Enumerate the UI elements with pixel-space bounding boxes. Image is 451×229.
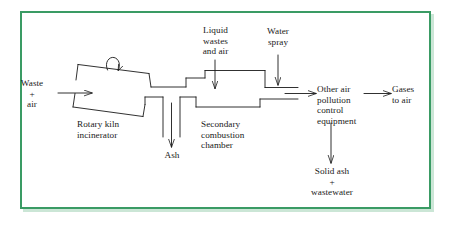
label-rotary-kiln-incinerator: Rotary kiln incinerator xyxy=(77,119,153,140)
kiln-upper-left-face xyxy=(76,65,78,81)
label-secondary-combustion-chamber: Secondary combustion chamber xyxy=(201,119,273,151)
rotary-kiln-body xyxy=(73,65,151,117)
kiln-upper-right-face xyxy=(149,74,151,88)
label-solid-ash-wastewater: Solid ash + wastewater xyxy=(296,166,368,198)
incineration-process-diagram: Waste + air Rotary kiln incinerator Liqu… xyxy=(0,0,451,229)
kiln-top-edge xyxy=(78,65,149,74)
secondary-combustion-chamber-shell xyxy=(205,71,298,108)
label-water-spray: Water spray xyxy=(253,26,303,47)
label-liquid-wastes-and-air: Liquid wastes and air xyxy=(188,25,243,57)
kiln-lower-right-face xyxy=(143,105,145,117)
label-ash: Ash xyxy=(154,150,190,161)
kiln-to-chamber-upper-duct xyxy=(151,78,205,87)
label-waste-air: Waste + air xyxy=(8,78,56,110)
label-other-air-pollution-control-equipment: Other air pollution control equipment xyxy=(317,84,379,126)
kiln-lower-left-face xyxy=(73,94,75,108)
kiln-bottom-edge xyxy=(73,107,143,117)
label-gases-to-air: Gases to air xyxy=(392,84,438,105)
